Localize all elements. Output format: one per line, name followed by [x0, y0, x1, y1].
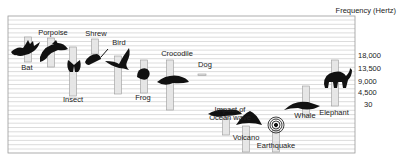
label-insect: Insect [63, 95, 84, 104]
label-bird: Bird [112, 38, 125, 47]
frog-icon [137, 68, 150, 79]
label-crocodile: Crocodile [161, 49, 193, 58]
y-tick-label: 18,000 [358, 51, 381, 60]
earthquake-icon [268, 117, 284, 133]
label-earthquake: Earthquake [257, 141, 295, 150]
bar-shrew [92, 39, 99, 54]
label-bat: Bat [21, 63, 33, 72]
bar-crocodile [167, 60, 174, 110]
gridlines [8, 20, 355, 149]
label-elephant: Elephant [319, 108, 350, 117]
y-tick-label: 30 [364, 100, 372, 109]
label-porpoise: Porpoise [38, 28, 68, 37]
whale-icon [284, 102, 320, 110]
label-frog: Frog [135, 93, 150, 102]
chart-title: Frequency (Hertz) [336, 6, 397, 15]
frequency-chart: BatPorpoiseInsectShrewBirdFrogCrocodileD… [0, 0, 400, 162]
y-tick-label: 13,500 [358, 64, 381, 73]
y-axis-ticks: 18,00013,5009,0004,50030 [358, 51, 381, 109]
label-dog: Dog [198, 60, 212, 69]
y-tick-label: 4,500 [358, 88, 377, 97]
label-shrew: Shrew [85, 29, 107, 38]
label-whale: Whale [294, 111, 315, 120]
y-tick-label: 9,000 [358, 77, 377, 86]
label-impact-of-ocean-wave: Ocean wave [209, 113, 251, 122]
label-volcano: Volcano [233, 133, 260, 142]
bar-dog [198, 74, 206, 76]
